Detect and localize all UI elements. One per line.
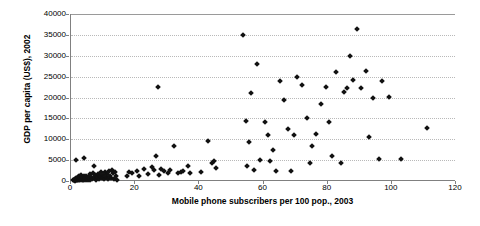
data-point [273, 168, 279, 174]
data-point [309, 143, 315, 149]
x-axis-label: 120 [448, 183, 461, 192]
y-axis-tick [66, 139, 69, 140]
data-point [136, 173, 142, 179]
gridline [71, 14, 455, 15]
data-point [347, 53, 353, 59]
x-axis-label: 40 [194, 183, 203, 192]
data-point [294, 74, 300, 80]
y-axis-tick [66, 160, 69, 161]
data-point [156, 172, 162, 178]
y-axis-ticks [0, 14, 70, 181]
data-point [254, 61, 260, 67]
data-point [251, 167, 257, 173]
data-point [354, 26, 360, 32]
data-point [73, 157, 79, 163]
data-point [153, 153, 159, 159]
x-axis-title: Mobile phone subscribers per 100 pop., 2… [70, 196, 455, 206]
x-axis-labels: 020406080100120 [70, 183, 455, 197]
gridline [71, 139, 455, 140]
gridline [71, 160, 455, 161]
data-point [376, 156, 382, 162]
x-axis-label: 0 [68, 183, 72, 192]
data-point [333, 69, 339, 75]
x-axis-label: 80 [322, 183, 331, 192]
data-point [185, 163, 191, 169]
gridline [71, 98, 455, 99]
y-axis-tick [66, 14, 69, 15]
data-point [168, 167, 174, 173]
y-axis-tick [66, 77, 69, 78]
data-point [151, 167, 157, 173]
data-point [270, 147, 276, 153]
x-axis-label: 60 [258, 183, 267, 192]
data-point [171, 144, 177, 150]
data-point [285, 126, 291, 132]
data-point [257, 157, 263, 163]
data-point [323, 85, 329, 91]
data-point [245, 164, 251, 170]
data-point [267, 158, 273, 164]
data-point [359, 85, 365, 91]
data-point [262, 119, 268, 125]
data-point [145, 171, 151, 177]
y-axis-tick [66, 98, 69, 99]
data-point [299, 82, 305, 88]
data-point [370, 95, 376, 101]
data-point [155, 84, 161, 90]
data-point [424, 125, 430, 131]
data-point [141, 166, 147, 172]
scatter-chart: GDP per capita (US$), 2002 0500010000150… [0, 0, 480, 226]
x-axis-label: 100 [384, 183, 397, 192]
y-axis-tick [66, 118, 69, 119]
data-point [304, 116, 310, 122]
data-point [240, 32, 246, 38]
data-point [330, 153, 336, 159]
y-axis-tick [66, 181, 69, 182]
data-point [326, 119, 332, 125]
y-axis-tick [66, 35, 69, 36]
data-point [213, 165, 219, 171]
data-point [318, 101, 324, 107]
data-point [248, 90, 254, 96]
data-point [379, 78, 385, 84]
y-axis-tick [66, 56, 69, 57]
data-point [277, 78, 283, 84]
data-point [399, 156, 405, 162]
data-point [363, 68, 369, 74]
data-point [291, 132, 297, 138]
plot-area [70, 14, 455, 181]
data-point [265, 132, 271, 138]
gridline [71, 56, 455, 57]
data-point [314, 131, 320, 137]
data-point [338, 160, 344, 166]
gridline [71, 77, 455, 78]
data-point [188, 170, 194, 176]
x-axis-label: 20 [130, 183, 139, 192]
gridline [71, 35, 455, 36]
data-point [198, 169, 204, 175]
data-point [288, 169, 294, 175]
data-point [91, 164, 97, 170]
data-point [386, 94, 392, 100]
